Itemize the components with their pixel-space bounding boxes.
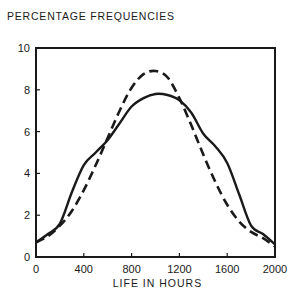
- y-tick-label: 6: [24, 126, 30, 138]
- plot-frame: [36, 48, 275, 257]
- x-tick-label: 2000: [263, 263, 287, 275]
- y-tick-label: 4: [24, 167, 30, 179]
- y-tick-label: 2: [24, 209, 30, 221]
- dashed-curve-fitted: [36, 71, 275, 247]
- x-tick-label: 1200: [167, 263, 191, 275]
- y-tick-label: 8: [24, 84, 30, 96]
- x-axis-label: LIFE IN HOURS: [0, 277, 305, 289]
- solid-curve-observed: [36, 94, 275, 245]
- x-tick-label: 800: [122, 263, 140, 275]
- y-tick-label: 0: [24, 251, 30, 263]
- x-tick-label: 400: [75, 263, 93, 275]
- y-tick-label: 10: [18, 42, 30, 54]
- x-tick-label: 1600: [215, 263, 239, 275]
- x-tick-label: 0: [33, 263, 39, 275]
- line-chart: 02468100400800120016002000: [0, 0, 305, 303]
